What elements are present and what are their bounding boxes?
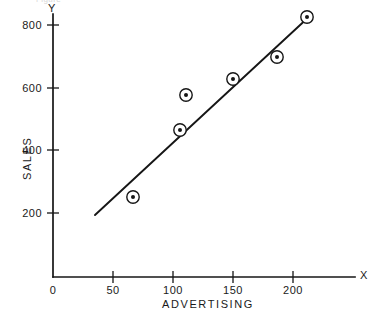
data-point-marker <box>180 89 192 101</box>
trend-line <box>95 14 312 215</box>
y-tick-label-600: 600 <box>2 83 42 94</box>
y-tick-label-800: 800 <box>2 20 42 31</box>
data-point-marker <box>301 11 313 23</box>
scatter-plot-figure: Figure <box>0 0 381 315</box>
x-tick-label-0: 0 <box>33 285 73 296</box>
plot-canvas <box>0 0 381 315</box>
y-axis-title: SALES <box>22 137 33 180</box>
y-axis-symbol: Y <box>48 3 56 14</box>
data-point-marker <box>227 73 239 85</box>
x-axis-title: ADVERTISING <box>162 299 254 310</box>
x-tick-label-200: 200 <box>273 285 313 296</box>
data-point-marker <box>174 124 186 136</box>
data-point-marker <box>271 51 283 63</box>
x-axis-symbol: X <box>360 270 368 281</box>
y-tick-label-200: 200 <box>2 208 42 219</box>
x-tick-label-100: 100 <box>153 285 193 296</box>
x-tick-label-150: 150 <box>213 285 253 296</box>
data-point-marker <box>127 191 139 203</box>
x-tick-label-50: 50 <box>93 285 133 296</box>
